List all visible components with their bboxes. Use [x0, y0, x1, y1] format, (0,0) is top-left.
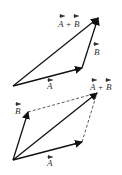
- label-sum: A + B: [89, 82, 112, 92]
- label-a: A: [46, 158, 53, 168]
- vector-b: [82, 18, 98, 68]
- vector-b: [13, 112, 28, 160]
- dashed-b-copy: [28, 93, 97, 112]
- label-b: B: [15, 106, 21, 116]
- vector-diagram: A + B B A A + B B A: [0, 0, 122, 175]
- label-a: A: [46, 81, 53, 91]
- vector-sum: [13, 93, 97, 160]
- label-sum: A + B: [57, 19, 80, 29]
- parallelogram-method-diagram: A + B B A: [13, 80, 112, 168]
- label-b: B: [94, 47, 100, 57]
- triangle-method-diagram: A + B B A: [13, 16, 100, 91]
- dashed-a-copy: [82, 93, 97, 142]
- vector-sum: [13, 18, 98, 86]
